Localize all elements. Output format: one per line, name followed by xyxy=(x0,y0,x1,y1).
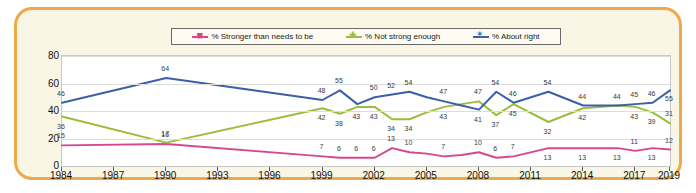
data-point-label: 48 xyxy=(318,87,326,94)
x-axis-tick-label: 2005 xyxy=(415,170,437,181)
data-point-label: 34 xyxy=(405,125,413,132)
chart-card: ■ % Stronger than needs to be ✚ % Not st… xyxy=(14,7,682,180)
data-point-label: 36 xyxy=(57,122,65,129)
data-point-label: 6 xyxy=(372,144,376,151)
data-point-label: 44 xyxy=(578,92,586,99)
data-point-label: 12 xyxy=(665,136,673,143)
data-point-label: 31 xyxy=(665,110,673,117)
data-point-label: 52 xyxy=(387,81,395,88)
data-point-label: 17 xyxy=(161,129,169,136)
x-axis-tick-label: 2014 xyxy=(571,170,593,181)
x-axis-tick-label: 1987 xyxy=(102,170,124,181)
y-axis-tick-label: 60 xyxy=(48,77,59,88)
data-point-label: 10 xyxy=(474,139,482,146)
data-point-label: 13 xyxy=(543,154,551,161)
data-point-label: 64 xyxy=(161,65,169,72)
data-point-label: 42 xyxy=(578,114,586,121)
data-point-label: 43 xyxy=(370,112,378,119)
x-axis-tick-label: 2017 xyxy=(623,170,645,181)
data-point-label: 44 xyxy=(613,92,621,99)
data-point-label: 43 xyxy=(439,112,447,119)
data-point-label: 55 xyxy=(335,77,343,84)
data-point-label: 46 xyxy=(648,89,656,96)
data-point-label: 11 xyxy=(631,137,638,144)
x-axis-tick-label: 1984 xyxy=(50,170,72,181)
data-point-label: 45 xyxy=(630,91,638,98)
x-axis-labels: 1984198719901993199619992002200520082011… xyxy=(61,170,671,186)
data-point-label: 6 xyxy=(337,144,341,151)
x-axis-tick-label: 1999 xyxy=(310,170,332,181)
data-point-label: 42 xyxy=(318,114,326,121)
data-point-label: 43 xyxy=(352,112,360,119)
data-point-label: 6 xyxy=(493,144,497,151)
legend-item-aboutright[interactable]: ✶ % About right xyxy=(473,32,540,41)
data-point-label: 47 xyxy=(439,88,447,95)
data-point-label: 10 xyxy=(405,139,413,146)
legend-label-aboutright: % About right xyxy=(492,33,540,41)
data-point-label: 37 xyxy=(491,121,499,128)
data-point-label: 50 xyxy=(370,84,378,91)
gridline xyxy=(62,111,670,112)
gridline xyxy=(62,84,670,85)
x-axis-tick-label: 2002 xyxy=(363,170,385,181)
legend-item-notstrong[interactable]: ✚ % Not strong enough xyxy=(346,32,440,41)
data-point-label: 15 xyxy=(57,132,65,139)
data-point-label: 41 xyxy=(474,115,482,122)
legend-marker-notstrong-icon: ✚ xyxy=(346,32,362,41)
data-point-label: 46 xyxy=(57,89,65,96)
legend-item-stronger[interactable]: ■ % Stronger than needs to be xyxy=(192,32,313,41)
data-point-label: 47 xyxy=(474,88,482,95)
x-axis-tick-label: 2011 xyxy=(519,170,541,181)
data-point-label: 55 xyxy=(665,95,673,102)
legend-marker-stronger-icon: ■ xyxy=(192,32,208,41)
x-axis-tick-label: 2019 xyxy=(658,170,680,181)
series-line-1 xyxy=(62,101,670,142)
data-point-label: 43 xyxy=(630,112,638,119)
y-axis-tick-label: 40 xyxy=(48,105,59,116)
data-point-label: 7 xyxy=(320,143,324,150)
data-point-label: 46 xyxy=(509,89,517,96)
data-point-label: 38 xyxy=(335,119,343,126)
data-point-label: 54 xyxy=(405,78,413,85)
gridline xyxy=(62,139,670,140)
x-axis-tick-label: 2008 xyxy=(467,170,489,181)
data-point-label: 13 xyxy=(387,135,395,142)
data-point-label: 13 xyxy=(648,154,656,161)
x-axis-tick-label: 1993 xyxy=(206,170,228,181)
data-point-label: 39 xyxy=(648,118,656,125)
legend-label-notstrong: % Not strong enough xyxy=(365,33,440,41)
x-axis-tick-label: 1996 xyxy=(258,170,280,181)
data-point-label: 34 xyxy=(387,125,395,132)
data-point-label: 6 xyxy=(354,144,358,151)
data-point-label: 32 xyxy=(543,128,551,135)
data-point-label: 45 xyxy=(509,110,517,117)
legend-marker-aboutright-icon: ✶ xyxy=(473,32,489,41)
legend-label-stronger: % Stronger than needs to be xyxy=(211,33,313,41)
data-point-label: 13 xyxy=(578,154,586,161)
y-axis-tick-label: 80 xyxy=(48,50,59,61)
data-point-label: 7 xyxy=(441,143,445,150)
data-point-label: 54 xyxy=(543,78,551,85)
x-axis-tick-label: 1990 xyxy=(154,170,176,181)
data-point-label: 54 xyxy=(491,78,499,85)
data-point-label: 7 xyxy=(511,143,515,150)
chart-legend: ■ % Stronger than needs to be ✚ % Not st… xyxy=(171,28,561,45)
y-axis-tick-label: 0 xyxy=(53,160,59,171)
gridline xyxy=(62,56,670,57)
data-point-label: 13 xyxy=(613,154,621,161)
y-axis-labels: 020406080 xyxy=(35,55,59,167)
plot-area xyxy=(61,55,671,167)
